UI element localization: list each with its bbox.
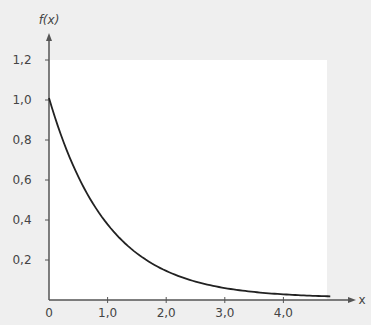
y-tick-label: 0,2 [12, 253, 31, 267]
x-tick-label: 0 [45, 306, 53, 320]
plot-area [49, 60, 327, 300]
y-tick-label: 0,8 [12, 133, 31, 147]
y-axis-arrow-icon [46, 33, 52, 41]
x-tick-label: 4,0 [274, 306, 293, 320]
x-tick-label: 2,0 [157, 306, 176, 320]
x-axis-title: x [358, 293, 365, 307]
y-tick-label: 0,6 [12, 173, 31, 187]
y-tick-label: 1,2 [12, 53, 31, 67]
x-tick-label: 1,0 [98, 306, 117, 320]
y-axis-ticks: 0,20,40,60,81,01,2 [12, 53, 49, 267]
y-tick-label: 0,4 [12, 213, 31, 227]
chart: 0,20,40,60,81,01,2 01,02,03,04,0 f(x) x [0, 0, 371, 325]
x-axis-arrow-icon [348, 297, 356, 303]
y-axis-title: f(x) [39, 13, 60, 27]
x-tick-label: 3,0 [215, 306, 234, 320]
y-tick-label: 1,0 [12, 93, 31, 107]
